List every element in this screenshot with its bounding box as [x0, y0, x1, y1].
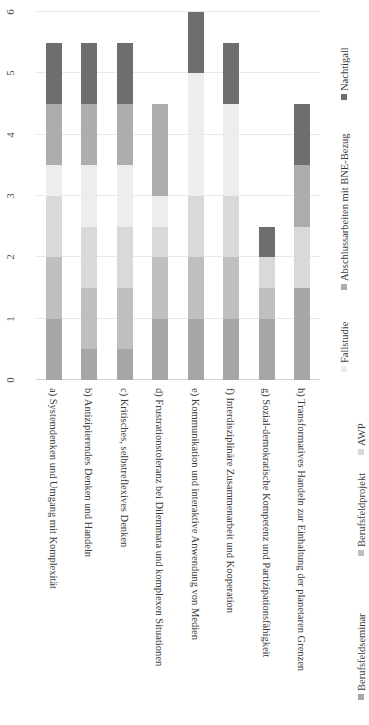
bar-segment[interactable]: [294, 165, 310, 226]
value-axis-tick-label: 4: [3, 125, 17, 145]
legend-label: Fallstudie: [339, 322, 350, 363]
bar-segment[interactable]: [188, 319, 204, 380]
bar-segment[interactable]: [188, 12, 204, 73]
bar-segment[interactable]: [152, 257, 168, 318]
gridline: [36, 11, 320, 12]
legend-label: Berufsfeldseminar: [356, 613, 367, 691]
bar-segment[interactable]: [46, 165, 62, 196]
gridline: [36, 195, 320, 196]
bar-segment[interactable]: [46, 104, 62, 165]
bar-segment[interactable]: [294, 227, 310, 288]
legend-entry[interactable]: AWP: [353, 424, 368, 456]
bar-segment[interactable]: [223, 257, 239, 318]
bar[interactable]: [81, 104, 97, 380]
gridline: [36, 134, 320, 135]
gridline: [36, 72, 320, 73]
bar[interactable]: [223, 43, 239, 380]
legend-swatch-icon: [341, 284, 347, 290]
bar-segment[interactable]: [152, 319, 168, 380]
category-label: e) Kommunikation und interaktive Anwendu…: [187, 388, 203, 640]
legend-label: AWP: [356, 424, 367, 447]
legend-entry[interactable]: Fallstudie: [336, 322, 351, 372]
bar[interactable]: [188, 12, 204, 380]
bar-segment[interactable]: [117, 349, 133, 380]
bar-segment[interactable]: [259, 288, 275, 319]
value-axis-tick-label: 1: [3, 309, 17, 329]
legend-swatch-icon: [358, 449, 364, 455]
category-label: g) Sozial-demokratische Kompetenz und Pa…: [258, 388, 274, 657]
bar-segment[interactable]: [152, 104, 168, 196]
legend-swatch-icon: [358, 694, 364, 700]
gridline: [36, 318, 320, 319]
bar-segment[interactable]: [81, 349, 97, 380]
axis-baseline: [36, 379, 320, 380]
value-axis-tick: 6: [0, 5, 36, 19]
bar-segment[interactable]: [117, 43, 133, 104]
bar-segment[interactable]: [223, 319, 239, 380]
legend-swatch-icon: [358, 550, 364, 556]
value-axis-tick-label: 0: [3, 370, 17, 390]
value-axis-tick: 2: [0, 250, 36, 264]
bar-segment[interactable]: [46, 319, 62, 380]
bar-segment[interactable]: [259, 319, 275, 380]
bar-segment[interactable]: [117, 165, 133, 226]
bar-segment[interactable]: [152, 227, 168, 258]
bar-segment[interactable]: [81, 288, 97, 349]
bar[interactable]: [259, 227, 275, 380]
plot-area: [36, 12, 320, 380]
bar[interactable]: [117, 104, 133, 380]
bar-segment[interactable]: [259, 257, 275, 288]
bar[interactable]: [294, 104, 310, 380]
legend-entry[interactable]: Berufsfeldprojekt: [353, 473, 368, 556]
bar-segment[interactable]: [46, 43, 62, 104]
bar-segment[interactable]: [188, 196, 204, 257]
legend-label: Nachtigall: [339, 47, 350, 91]
value-axis-tick: 5: [0, 66, 36, 80]
bar-segment[interactable]: [152, 196, 168, 227]
bar-segment[interactable]: [223, 196, 239, 257]
bar-segment[interactable]: [117, 104, 133, 165]
bar-segment[interactable]: [223, 43, 239, 104]
bar-segment[interactable]: [81, 104, 97, 165]
bar-segment[interactable]: [81, 165, 97, 226]
bar[interactable]: [46, 43, 62, 380]
bar-segment[interactable]: [223, 104, 239, 196]
bar-segment[interactable]: [46, 257, 62, 318]
value-axis-tick-label: 3: [3, 186, 17, 206]
category-label: a) Systemdenken und Umgang mit Komplexit…: [45, 388, 61, 589]
value-axis-tick: 3: [0, 189, 36, 203]
legend-label: Abschlussarbeiten mit BNE-Bezug: [339, 133, 350, 281]
bar-segment[interactable]: [188, 73, 204, 196]
category-label: f) Interdisziplinäre Zusammenarbeit und …: [222, 388, 238, 613]
gridline: [36, 256, 320, 257]
bar-segment[interactable]: [259, 227, 275, 258]
bar-segment[interactable]: [188, 257, 204, 318]
legend-entry[interactable]: Abschlussarbeiten mit BNE-Bezug: [336, 133, 351, 290]
value-axis-tick-label: 5: [3, 63, 17, 83]
value-axis-tick: 4: [0, 128, 36, 142]
legend-swatch-icon: [341, 366, 347, 372]
bar[interactable]: [152, 104, 168, 380]
bar-segment[interactable]: [117, 288, 133, 349]
bar-segment[interactable]: [81, 43, 97, 104]
category-label: d) Frustrationstoleranz bei Dilemmata un…: [151, 388, 167, 666]
value-axis: 0123456: [0, 0, 36, 392]
bar-segment[interactable]: [46, 196, 62, 257]
legend-swatch-icon: [341, 94, 347, 100]
bar-segment[interactable]: [294, 288, 310, 380]
value-axis-tick-label: 2: [3, 247, 17, 267]
bar-segment[interactable]: [294, 104, 310, 165]
value-axis-tick: 1: [0, 312, 36, 326]
category-label: b) Antizipierendes Denken und Handeln: [80, 388, 96, 557]
category-label: c) Kritisches, selbstreflexives Denken: [116, 388, 132, 547]
value-axis-tick: 0: [0, 373, 36, 387]
value-axis-tick-label: 6: [3, 2, 17, 22]
bar-segment[interactable]: [81, 227, 97, 288]
legend-entry[interactable]: Berufsfeldseminar: [353, 613, 368, 700]
category-label: h) Transformatives Handeln zur Einhaltun…: [293, 388, 309, 671]
legend-label: Berufsfeldprojekt: [356, 473, 367, 547]
legend-entry[interactable]: Nachtigall: [336, 47, 351, 100]
bar-segment[interactable]: [117, 227, 133, 288]
category-axis: a) Systemdenken und Umgang mit Komplexit…: [36, 384, 320, 725]
